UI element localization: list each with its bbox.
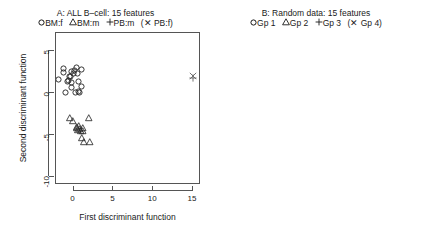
panel-b-legend: Gp 1 Gp 2 Gp 3 (✕ Gp 4): [211, 18, 421, 28]
legend-entry-pb-m: PB:m: [106, 18, 135, 28]
legend-label-gp3: Gp 3: [323, 18, 341, 28]
x-tick: [152, 186, 153, 191]
data-point-circle: [78, 83, 85, 90]
y-tick-label: -10: [43, 176, 51, 194]
legend-label-pb-m: PB:m: [114, 18, 135, 28]
x-axis-title-a: First discriminant function: [55, 212, 200, 222]
panel-a-legend: BM:f BM:m PB:m (✕ PB:f): [0, 18, 211, 28]
y-axis-title-a: Second discriminant function: [18, 28, 28, 188]
x-tick: [73, 186, 74, 191]
plus-icon: [106, 18, 114, 28]
legend-label-gp2: Gp 2: [290, 18, 308, 28]
data-points-a: [56, 33, 199, 183]
circle-icon: [250, 18, 257, 28]
legend-entry-gp4: (✕ Gp 4): [347, 18, 381, 28]
x-axis-line: [73, 190, 193, 191]
y-tick-label: 0: [43, 92, 51, 110]
legend-label-bm-m: BM:m: [77, 18, 99, 28]
legend-label-bm-f: BM:f: [45, 18, 62, 28]
x-tick-label: 15: [188, 195, 197, 203]
plus-icon: [315, 18, 323, 28]
x-tick-label: 5: [110, 195, 114, 203]
data-point-triangle: [85, 114, 93, 122]
data-point-cross: [189, 72, 197, 80]
x-tick: [192, 186, 193, 191]
figure-root: A: ALL B–cell: 15 features BM:f BM:m PB:…: [0, 0, 421, 242]
legend-entry-bm-m: BM:m: [69, 18, 99, 28]
triangle-icon: [282, 18, 290, 28]
legend-entry-gp2: Gp 2: [282, 18, 308, 28]
x-tick-label: 0: [70, 195, 74, 203]
legend-entry-pb-f: (✕ PB:f): [141, 18, 173, 28]
plot-area-a: [55, 32, 200, 184]
data-point-circle: [78, 66, 85, 73]
y-tick-label: -5: [43, 134, 51, 152]
data-point-circle: [56, 76, 62, 83]
legend-entry-gp3: Gp 3: [315, 18, 341, 28]
triangle-icon: [69, 18, 77, 28]
legend-entry-gp1: Gp 1: [250, 18, 275, 28]
panel-b-title: B: Random data: 15 features: [211, 8, 421, 18]
panel-b: B: Random data: 15 features Gp 1 Gp 2 Gp…: [211, 0, 421, 242]
legend-label-pb-f: (✕ PB:f): [141, 18, 173, 28]
legend-entry-bm-f: BM:f: [38, 18, 62, 28]
data-point-triangle: [79, 127, 87, 135]
legend-label-gp1: Gp 1: [257, 18, 275, 28]
panel-a: A: ALL B–cell: 15 features BM:f BM:m PB:…: [0, 0, 211, 242]
y-axis-line: [48, 50, 49, 175]
y-tick-label: 5: [43, 50, 51, 68]
legend-label-gp4: (✕ Gp 4): [347, 18, 381, 28]
panel-a-title: A: ALL B–cell: 15 features: [0, 8, 211, 18]
data-point-triangle: [86, 138, 94, 146]
x-tick-label: 10: [148, 195, 157, 203]
x-tick: [112, 186, 113, 191]
